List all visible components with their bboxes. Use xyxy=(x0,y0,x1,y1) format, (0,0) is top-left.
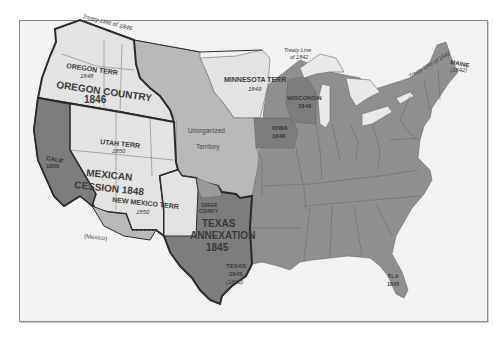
wisconsin-label: WISCONSIN xyxy=(287,95,322,101)
texas-annexation-year: 1845 xyxy=(206,242,229,253)
oregon-terr-year: 1848 xyxy=(80,73,94,79)
territorial-growth-map: Treaty Line of 1846 Treaty Line of 1842 … xyxy=(0,0,504,337)
unorganized-territory-line2: Territory xyxy=(196,143,220,151)
iowa-label: IOWA xyxy=(272,125,289,131)
greer-county-line1: GREER xyxy=(201,203,218,208)
calif-year: 1850 xyxy=(46,163,60,169)
texas-state-label: TEXAS xyxy=(226,263,246,269)
maine-year: (1842) xyxy=(450,67,467,73)
texas-state-note: (1850) xyxy=(226,279,243,285)
wisconsin-year: 1848 xyxy=(298,103,312,109)
fla-label: FLA xyxy=(388,273,399,279)
new-mexico-terr-year: 1850 xyxy=(136,209,150,215)
oregon-country-year: 1846 xyxy=(84,94,107,105)
texas-annexation-line1: TEXAS xyxy=(202,218,236,229)
minnesota-terr-year: 1849 xyxy=(248,86,262,92)
greer-county-line2: COUNTY xyxy=(199,209,218,214)
minnesota-terr-label: MINNESOTA TERR xyxy=(224,76,286,83)
treaty-line-1842-label-line1: Treaty Line xyxy=(284,47,311,53)
utah-terr-year: 1850 xyxy=(112,148,126,154)
fla-year: 1845 xyxy=(387,281,399,287)
unorganized-territory-line1: Unorganized xyxy=(188,127,225,135)
texas-annexation-line2: ANNEXATION xyxy=(190,230,255,241)
texas-state-year: 1845 xyxy=(229,271,243,277)
mexico-label: (Mexico) xyxy=(84,233,108,241)
treaty-line-1842-label-line2: of 1842 xyxy=(290,54,308,60)
iowa-year: 1846 xyxy=(272,133,286,139)
